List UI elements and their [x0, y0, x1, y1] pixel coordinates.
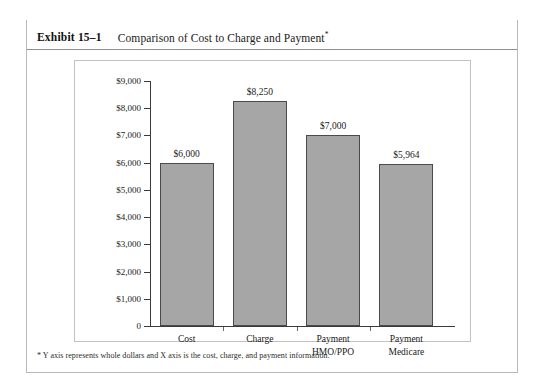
bar-value-label: $5,964: [366, 150, 446, 160]
y-axis-tick-label: $3,000: [79, 239, 141, 249]
x-axis-line: [150, 326, 455, 327]
y-axis-tick: [144, 326, 150, 327]
exhibit-number: Exhibit 15–1: [37, 31, 102, 43]
y-axis-tick: [144, 163, 150, 164]
y-axis-tick: [144, 272, 150, 273]
x-axis-separator-tick: [297, 327, 298, 331]
y-axis-tick: [144, 135, 150, 136]
bar-value-label: $7,000: [293, 121, 373, 131]
y-axis-tick: [144, 244, 150, 245]
x-axis-label: PaymentMedicare: [361, 333, 451, 358]
y-axis-tick-label: $6,000: [79, 158, 141, 168]
bar-value-label: $6,000: [147, 149, 227, 159]
exhibit-title-row: Exhibit 15–1 Comparison of Cost to Charg…: [27, 24, 517, 50]
y-axis-tick-label: 0: [79, 321, 141, 331]
bar: [306, 135, 360, 326]
y-axis-tick-label: $5,000: [79, 185, 141, 195]
bar: [379, 164, 433, 326]
exhibit-title-footnote-marker: *: [325, 30, 329, 39]
y-axis-tick-label: $1,000: [79, 294, 141, 304]
bar: [233, 101, 287, 326]
x-axis-label-line: Payment: [361, 333, 451, 346]
y-axis-tick-label: $7,000: [79, 130, 141, 140]
y-axis-tick-label: $8,000: [79, 103, 141, 113]
exhibit-title: Comparison of Cost to Charge and Payment…: [118, 30, 329, 44]
y-axis-tick-label: $4,000: [79, 212, 141, 222]
chart-plot-frame: 0$1,000$2,000$3,000$4,000$5,000$6,000$7,…: [74, 60, 471, 342]
exhibit-footnote: * Y axis represents whole dollars and X …: [37, 351, 330, 360]
bar: [160, 163, 214, 326]
exhibit-title-text: Comparison of Cost to Charge and Payment: [118, 31, 325, 43]
y-axis-tick: [144, 81, 150, 82]
y-axis-tick: [144, 299, 150, 300]
y-axis-tick-label: $9,000: [79, 76, 141, 86]
y-axis-tick-label: $2,000: [79, 267, 141, 277]
x-axis-separator-tick: [370, 327, 371, 331]
y-axis-tick: [144, 217, 150, 218]
bar-value-label: $8,250: [220, 87, 300, 97]
exhibit-frame: Exhibit 15–1 Comparison of Cost to Charg…: [26, 20, 518, 373]
y-axis-line: [150, 81, 151, 327]
x-axis-separator-tick: [223, 327, 224, 331]
y-axis-tick: [144, 108, 150, 109]
x-axis-label-line: Medicare: [361, 346, 451, 359]
y-axis-tick: [144, 190, 150, 191]
